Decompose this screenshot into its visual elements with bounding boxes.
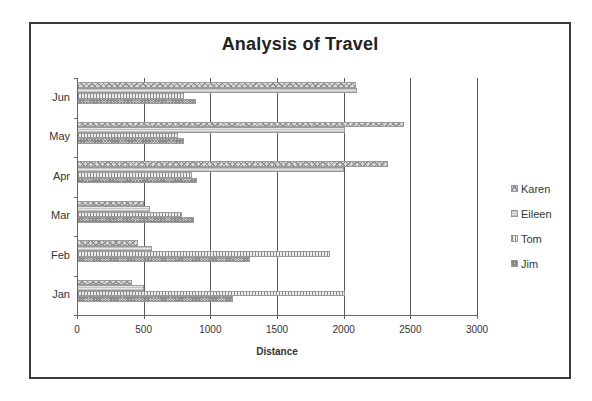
legend-label: Tom (521, 233, 542, 245)
legend-item-karen: Karen (511, 176, 552, 201)
x-tick (410, 315, 411, 319)
y-tick (74, 236, 78, 237)
y-category-label: Jun (30, 91, 70, 103)
tom-swatch-icon (511, 235, 518, 242)
bar-jim-may (77, 138, 184, 144)
legend-label: Jim (521, 258, 538, 270)
x-tick (210, 315, 211, 319)
y-tick (74, 276, 78, 277)
y-tick (74, 157, 78, 158)
x-tick (344, 315, 345, 319)
x-tick-label: 500 (124, 324, 164, 335)
x-axis-title: Distance (77, 346, 477, 357)
karen-swatch-icon (511, 185, 518, 192)
bar-jim-mar (77, 217, 194, 223)
y-tick (74, 78, 78, 79)
y-category-label: May (30, 130, 70, 142)
x-axis (74, 315, 478, 316)
y-tick (74, 118, 78, 119)
eileen-swatch-icon (511, 210, 518, 217)
jim-swatch-icon (511, 260, 518, 267)
x-tick-label: 0 (57, 324, 97, 335)
x-tick (277, 315, 278, 319)
gridline (277, 78, 278, 315)
legend: Karen Eileen Tom Jim (511, 176, 552, 276)
legend-label: Eileen (521, 208, 552, 220)
bar-jim-jan (77, 296, 233, 302)
x-tick-label: 1000 (190, 324, 230, 335)
x-tick-label: 2500 (390, 324, 430, 335)
x-tick-label: 2000 (324, 324, 364, 335)
x-tick-label: 3000 (457, 324, 497, 335)
plot-area (77, 78, 477, 315)
bar-jim-apr (77, 178, 197, 184)
gridline (410, 78, 411, 315)
y-category-label: Mar (30, 209, 70, 221)
gridline (144, 78, 145, 315)
gridline (210, 78, 211, 315)
legend-label: Karen (521, 183, 550, 195)
bar-jim-jun (77, 99, 196, 105)
y-category-label: Jan (30, 288, 70, 300)
legend-item-tom: Tom (511, 226, 552, 251)
legend-item-eileen: Eileen (511, 201, 552, 226)
x-tick (477, 315, 478, 319)
gridline (477, 78, 478, 315)
gridline (344, 78, 345, 315)
x-tick-label: 1500 (257, 324, 297, 335)
x-tick (144, 315, 145, 319)
y-tick (74, 315, 78, 316)
y-tick (74, 197, 78, 198)
legend-item-jim: Jim (511, 251, 552, 276)
bar-jim-feb (77, 257, 250, 263)
y-category-label: Feb (30, 249, 70, 261)
y-category-label: Apr (30, 170, 70, 182)
chart-title: Analysis of Travel (29, 34, 571, 55)
